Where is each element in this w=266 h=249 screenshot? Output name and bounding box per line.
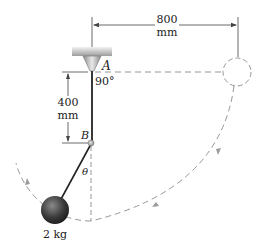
pendulum-diagram: 800 mm 400 mm A 90° B θ 2 kg [0,0,266,249]
pivot-bracket [83,56,101,71]
swing-path-right [91,86,234,221]
horizontal-dim-unit: mm [157,26,178,39]
horizontal-dimension: 800 mm [92,13,238,57]
ceiling-support [72,47,112,56]
release-position-circle [223,58,251,86]
horizontal-dim-value: 800 [157,13,178,26]
direction-arrow-icon [152,202,159,207]
pendulum-ball [41,196,69,224]
pivot-a-label: A [101,59,111,73]
direction-arrow-icon [216,148,221,155]
angle-90-label: 90° [95,75,115,88]
vertical-dim-unit: mm [58,109,79,122]
direction-arrow-icon [25,178,30,185]
theta-label: θ [82,166,88,177]
mass-label: 2 kg [43,228,67,241]
peg-b-label: B [80,129,89,142]
vertical-dim-value: 400 [58,96,79,109]
